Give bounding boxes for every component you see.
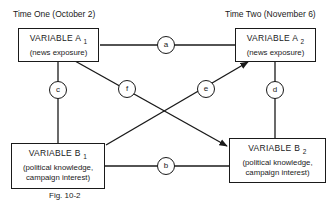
time-two-label: Time Two (November 6) — [225, 9, 316, 19]
time-one-label: Time One (October 2) — [13, 9, 95, 19]
path-f-circle: f — [118, 80, 136, 98]
variable-b2-title: VARIABLE B 2 — [230, 143, 325, 155]
variable-b1-title: VARIABLE B 1 — [12, 148, 104, 160]
variable-b1-desc: (political knowledge, campaign interest) — [12, 163, 104, 183]
variable-a2-desc: (news exposure) — [236, 48, 315, 58]
desc-line: (political knowledge, — [12, 163, 104, 173]
variable-b2-desc: (political knowledge, campaign interest) — [230, 158, 325, 178]
path-e-circle: e — [197, 80, 215, 98]
path-c-circle: c — [49, 81, 67, 99]
desc-line: campaign interest) — [12, 173, 104, 183]
figure-caption: Fig. 10-2 — [49, 191, 81, 200]
path-d-circle: d — [266, 81, 284, 99]
path-a-circle: a — [157, 36, 175, 54]
variable-a1-box: VARIABLE A 1 (news exposure) — [18, 28, 99, 62]
variable-a1-desc: (news exposure) — [19, 48, 98, 58]
variable-a2-title: VARIABLE A 2 — [236, 33, 315, 45]
path-b-circle: b — [157, 157, 175, 175]
variable-b2-box: VARIABLE B 2 (political knowledge, campa… — [229, 138, 326, 183]
variable-b1-box: VARIABLE B 1 (political knowledge, campa… — [11, 143, 105, 189]
variable-a1-title: VARIABLE A 1 — [19, 33, 98, 45]
desc-line: (political knowledge, — [230, 158, 325, 168]
variable-a2-box: VARIABLE A 2 (news exposure) — [235, 28, 316, 62]
desc-line: campaign interest) — [230, 168, 325, 178]
